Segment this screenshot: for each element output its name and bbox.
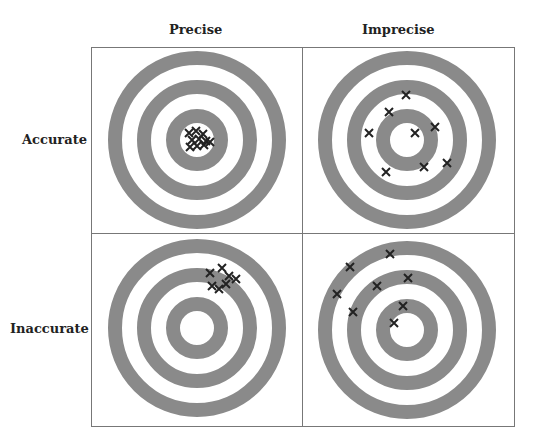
target-accurate-imprecise [325, 58, 489, 222]
targets-canvas [0, 0, 541, 438]
target-accurate-precise [115, 58, 279, 222]
hit-marker-icon [382, 168, 390, 176]
target-ring [354, 277, 460, 383]
hit-marker-icon [218, 264, 226, 272]
target-ring [383, 116, 431, 164]
target-ring [144, 275, 250, 381]
hit-marker-icon [365, 129, 373, 137]
target-ring [354, 87, 460, 193]
target-inaccurate-imprecise [325, 248, 489, 412]
target-ring [383, 306, 431, 354]
target-inaccurate-precise [115, 246, 279, 410]
target-ring [173, 304, 221, 352]
hit-marker-icon [411, 129, 419, 137]
